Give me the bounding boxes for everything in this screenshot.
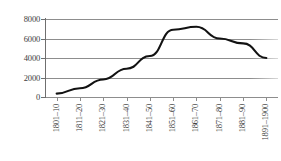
x-tick-label: 1821–30 — [98, 104, 107, 132]
y-tick-label: 6000 — [6, 35, 40, 44]
x-tick-mark — [80, 97, 81, 101]
x-tick-label: 1891–1900 — [261, 104, 270, 140]
x-tick-mark — [220, 97, 221, 101]
line-chart: 02000400060008000 1801–101811–201821–301… — [0, 0, 281, 161]
x-tick-label: 1871–80 — [215, 104, 224, 132]
data-series-line — [45, 19, 278, 97]
x-tick-mark — [57, 97, 58, 101]
y-tick-label: 0 — [6, 93, 40, 102]
x-tick-mark — [196, 97, 197, 101]
plot-area — [45, 19, 278, 97]
x-tick-mark — [127, 97, 128, 101]
x-tick-label: 1801–10 — [52, 104, 61, 132]
x-tick-mark — [103, 97, 104, 101]
x-tick-label: 1811–20 — [75, 104, 84, 132]
x-tick-label: 1881–90 — [238, 104, 247, 132]
x-tick-label: 1841–50 — [145, 104, 154, 132]
x-tick-mark — [243, 97, 244, 101]
y-tick-mark — [41, 58, 46, 59]
y-tick-mark — [41, 97, 46, 98]
y-tick-label: 2000 — [6, 74, 40, 83]
x-tick-mark — [266, 97, 267, 101]
y-axis: 02000400060008000 — [0, 0, 40, 161]
y-tick-label: 4000 — [6, 54, 40, 63]
x-tick-label: 1861–70 — [191, 104, 200, 132]
x-tick-label: 1831–40 — [122, 104, 131, 132]
x-tick-mark — [173, 97, 174, 101]
x-tick-mark — [150, 97, 151, 101]
y-tick-mark — [41, 39, 46, 40]
y-tick-mark — [41, 78, 46, 79]
y-tick-label: 8000 — [6, 15, 40, 24]
y-tick-mark — [41, 19, 46, 20]
x-tick-label: 1851–60 — [168, 104, 177, 132]
